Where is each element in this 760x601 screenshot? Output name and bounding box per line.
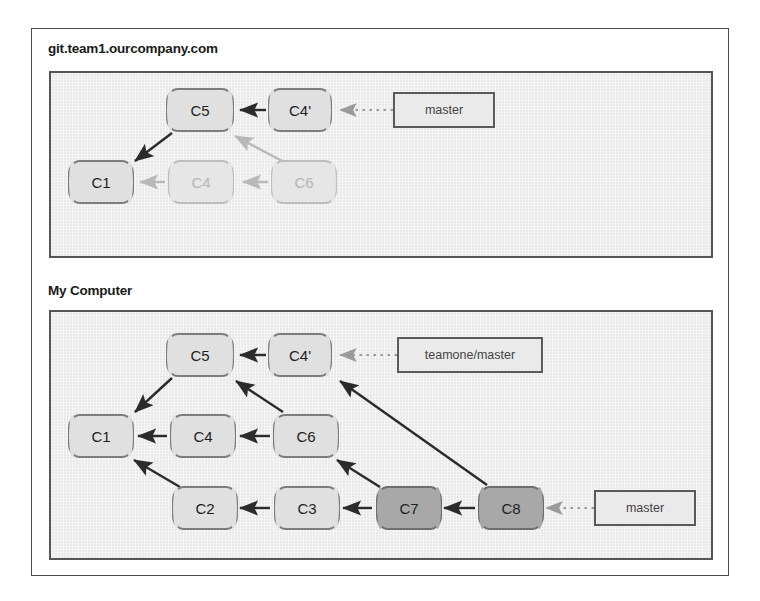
commit-label: C6	[296, 429, 315, 444]
commit-node-c2[interactable]: C2	[172, 486, 238, 530]
ref-box-master-local[interactable]: master	[594, 490, 696, 526]
commit-node-c4[interactable]: C4	[168, 160, 234, 204]
commit-node-c8[interactable]: C8	[478, 486, 544, 530]
ref-label: master	[425, 103, 463, 117]
git-history-figure: git.team1.ourcompany.com My Computer	[0, 0, 760, 601]
commit-label: C6	[294, 175, 313, 190]
commit-node-c6[interactable]: C6	[273, 414, 339, 458]
commit-label: C8	[501, 501, 520, 516]
commit-label: C5	[190, 103, 209, 118]
commit-label: C4	[191, 175, 210, 190]
commit-node-c6[interactable]: C6	[271, 160, 337, 204]
commit-label: C4	[193, 429, 212, 444]
commit-label: C4'	[289, 348, 311, 363]
commit-node-c4[interactable]: C4	[170, 414, 236, 458]
commit-label: C2	[195, 501, 214, 516]
ref-box-teamone-master[interactable]: teamone/master	[397, 337, 543, 373]
commit-label: C3	[297, 501, 316, 516]
commit-label: C7	[399, 501, 418, 516]
commit-label: C5	[190, 348, 209, 363]
commit-node-c4-prime[interactable]: C4'	[268, 333, 332, 377]
commit-label: C1	[91, 429, 110, 444]
panel-title-remote: git.team1.ourcompany.com	[48, 41, 218, 56]
commit-node-c3[interactable]: C3	[274, 486, 340, 530]
panel-remote	[49, 71, 713, 258]
commit-node-c5[interactable]: C5	[166, 333, 234, 377]
ref-label: master	[626, 501, 664, 515]
commit-node-c7[interactable]: C7	[376, 486, 442, 530]
ref-label: teamone/master	[425, 348, 515, 362]
commit-node-c5[interactable]: C5	[166, 88, 234, 132]
panel-texture	[51, 73, 711, 256]
commit-node-c4-prime[interactable]: C4'	[268, 88, 332, 132]
commit-label: C4'	[289, 103, 311, 118]
commit-label: C1	[91, 175, 110, 190]
panel-title-local: My Computer	[48, 283, 132, 298]
commit-node-c1[interactable]: C1	[68, 414, 134, 458]
ref-box-master-remote[interactable]: master	[393, 92, 495, 128]
commit-node-c1[interactable]: C1	[68, 160, 134, 204]
